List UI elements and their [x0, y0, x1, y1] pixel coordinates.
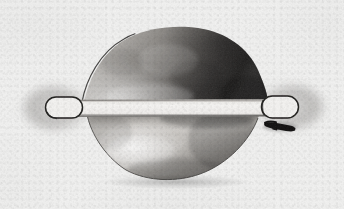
scan-grain-overlay-light [0, 0, 344, 209]
figure-canvas: Lens-shaped body with two stadium-shaped… [0, 0, 344, 209]
illustration-svg [0, 0, 344, 209]
